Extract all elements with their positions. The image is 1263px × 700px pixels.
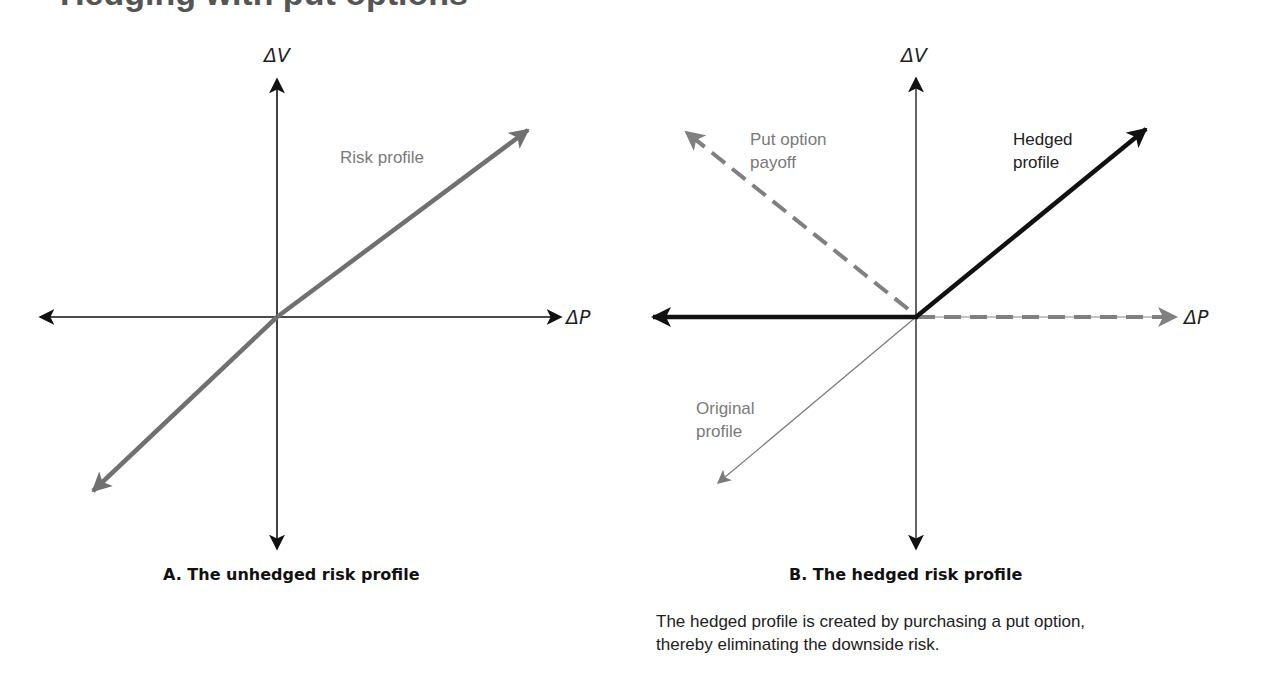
put-payoff-line-up [686, 132, 908, 309]
panel-b-note: The hedged profile is created by purchas… [656, 610, 1126, 656]
panel-a-caption: A. The unhedged risk profile [163, 565, 420, 584]
panel-a-x-axis-label: ΔP [564, 306, 591, 328]
panel-a-y-axis-label: ΔV [262, 44, 292, 66]
original-profile-label-line2: profile [696, 422, 742, 441]
risk-profile-line-down [93, 317, 277, 491]
put-payoff-label-line1: Put option [750, 130, 827, 149]
risk-profile-diagram: ΔV ΔP Risk profile ΔV ΔP Put option payo… [0, 0, 1263, 700]
panel-b-y-axis-label: ΔV [899, 44, 929, 66]
hedged-profile-label-line2: profile [1013, 153, 1059, 172]
panel-b-caption: B. The hedged risk profile [789, 565, 1022, 584]
panel-b: ΔV ΔP Put option payoff Hedged profile O… [653, 44, 1209, 549]
original-profile-label-line1: Original [696, 399, 755, 418]
panel-a: ΔV ΔP Risk profile [40, 44, 591, 549]
put-payoff-label-line2: payoff [750, 153, 796, 172]
hedged-profile-label-line1: Hedged [1013, 130, 1073, 149]
risk-profile-label: Risk profile [340, 148, 424, 167]
panel-b-x-axis-label: ΔP [1182, 306, 1209, 328]
